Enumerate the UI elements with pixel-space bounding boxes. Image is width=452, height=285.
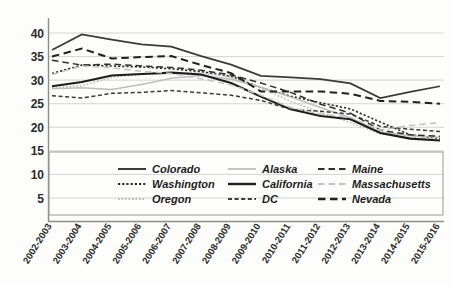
x-tick-label: 2005-2006	[110, 221, 143, 265]
y-tick-label: 15	[31, 144, 45, 158]
legend-label-dc: DC	[262, 193, 279, 205]
legend-label-colorado: Colorado	[152, 163, 201, 175]
legend-label-alaska: Alaska	[261, 163, 297, 175]
legend-label-maine: Maine	[352, 163, 383, 175]
x-axis-tick-labels: 2002-20032003-20042004-20052005-20062006…	[20, 221, 441, 266]
x-tick-label: 2015-2016	[408, 221, 441, 265]
gridlines	[49, 33, 444, 198]
y-axis-tick-labels: 510152025303540	[31, 27, 45, 206]
x-tick-label: 2013-2014	[349, 221, 383, 266]
legend-label-washington: Washington	[152, 178, 215, 190]
y-tick-label: 40	[31, 27, 45, 41]
x-tick-label: 2009-2010	[229, 221, 262, 265]
series-lines	[52, 34, 440, 140]
x-tick-label: 2002-2003	[20, 221, 53, 265]
legend-label-massachusetts: Massachusetts	[352, 178, 431, 190]
x-tick-label: 2003-2004	[50, 221, 84, 266]
y-tick-label: 5	[37, 192, 44, 206]
y-tick-label: 35	[31, 50, 45, 64]
y-tick-label: 10	[31, 168, 45, 182]
x-tick-label: 2012-2013	[319, 221, 352, 265]
chart-canvas: 510152025303540 ColoradoWashingtonOregon…	[0, 0, 452, 285]
y-tick-label: 30	[31, 74, 45, 88]
y-tick-label: 25	[31, 97, 45, 111]
legend-label-oregon: Oregon	[152, 193, 191, 205]
chart-legend: ColoradoWashingtonOregonAlaskaCalifornia…	[49, 152, 443, 215]
legend-label-nevada: Nevada	[352, 193, 391, 205]
y-tick-label: 20	[31, 121, 45, 135]
x-tick-label: 2007-2008	[170, 221, 203, 265]
x-tick-label: 2004-2005	[80, 221, 114, 266]
x-tick-label: 2006-2007	[140, 221, 173, 265]
legend-label-california: California	[262, 178, 313, 190]
x-tick-label: 2010-2011	[259, 221, 293, 266]
x-tick-label: 2008-2009	[199, 221, 232, 265]
line-chart: 510152025303540 ColoradoWashingtonOregon…	[0, 0, 452, 285]
x-tick-label: 2014-2015	[378, 221, 412, 266]
axes	[49, 18, 445, 222]
series-line-dc	[52, 91, 440, 132]
series-line-alaska	[52, 75, 440, 137]
x-tick-label: 2011-2012	[289, 221, 322, 265]
